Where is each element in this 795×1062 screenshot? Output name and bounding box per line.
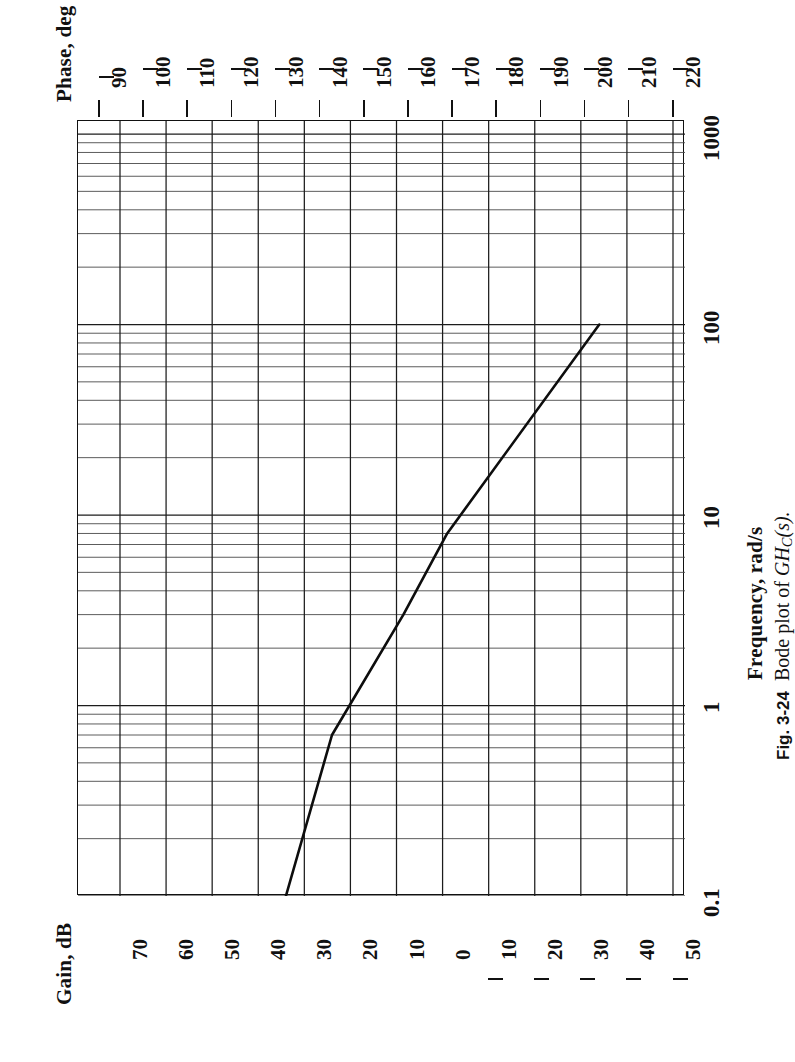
phase-tick-minus-190	[540, 68, 555, 70]
gain-tick-0: 0	[453, 950, 474, 961]
phase-tick-minus-140	[319, 68, 334, 70]
phase-tickmark-200	[584, 100, 586, 117]
caption-function-arg: (s).	[771, 511, 793, 537]
phase-axis-title: Phase, deg	[54, 6, 75, 103]
phase-tick-minus-150	[363, 68, 378, 70]
phase-tick-110: 110	[197, 58, 218, 88]
gain-tick-50: 50	[222, 939, 243, 960]
phase-tick-minus-200	[584, 68, 599, 70]
phase-tick-minus-160	[408, 68, 423, 70]
gain-tick-minus--10	[488, 978, 503, 980]
gain-tick-60: 60	[176, 939, 197, 960]
phase-tick-220: 220	[683, 57, 704, 89]
phase-tick-100: 100	[153, 57, 174, 89]
phase-tick-minus-170	[452, 68, 467, 70]
phase-tickmark-150	[363, 100, 365, 117]
gain-tick--40: 40	[637, 939, 658, 960]
phase-tick-160: 160	[418, 57, 439, 89]
gain-tick--10: 10	[499, 939, 520, 960]
figure-caption: Fig. 3-24 Bode plot of GHC(s).	[772, 511, 795, 760]
gain-tick-70: 70	[130, 939, 151, 960]
phase-tickmark-90	[98, 100, 100, 117]
phase-tick-210: 210	[639, 57, 660, 89]
phase-tickmark-130	[275, 100, 277, 117]
gain-tick-10: 10	[407, 939, 428, 960]
phase-tick-minus-110	[187, 68, 202, 70]
bode-plot-area	[77, 120, 684, 895]
gain-tick--50: 50	[683, 939, 704, 960]
phase-tick-150: 150	[374, 57, 395, 89]
frequency-tick-100: 100	[700, 311, 723, 346]
gain-tick-30: 30	[314, 939, 335, 960]
frequency-tick-0.1: 0.1	[700, 888, 723, 917]
phase-tick-120: 120	[241, 57, 262, 89]
phase-tickmark-190	[540, 100, 542, 117]
phase-tick-140: 140	[330, 57, 351, 89]
phase-tickmark-140	[319, 100, 321, 117]
phase-tickmark-160	[407, 100, 409, 117]
caption-function-subscript: C	[779, 538, 795, 548]
figure-number: Fig. 3-24	[774, 691, 793, 760]
caption-function: GH	[771, 547, 793, 576]
gain-tick-minus--20	[534, 978, 549, 980]
phase-tick-minus-90	[99, 76, 114, 78]
frequency-tick-1000: 1000	[700, 115, 723, 161]
gain-tick-40: 40	[268, 939, 289, 960]
gain-axis-title: Gain, dB	[54, 923, 75, 1005]
phase-tick-minus-180	[496, 68, 511, 70]
gain-tick-minus--40	[626, 978, 641, 980]
phase-tick-minus-120	[231, 68, 246, 70]
phase-tick-minus-130	[275, 68, 290, 70]
phase-tickmark-120	[231, 100, 233, 117]
phase-tick-minus-100	[143, 68, 158, 70]
phase-tick-minus-210	[628, 68, 643, 70]
phase-tickmark-100	[142, 100, 144, 117]
grid-major-lines	[78, 121, 685, 896]
phase-tick-180: 180	[506, 57, 527, 89]
phase-tick-130: 130	[286, 57, 307, 89]
frequency-axis-title: Frequency, rad/s	[745, 527, 766, 680]
phase-tickmark-220	[672, 100, 674, 117]
phase-tick-170: 170	[462, 57, 483, 89]
gain-tick--30: 30	[591, 939, 612, 960]
phase-tickmark-170	[451, 100, 453, 117]
grid-minor-lines	[78, 143, 685, 839]
bode-plot-svg	[78, 121, 685, 896]
phase-tick-190: 190	[551, 57, 572, 89]
phase-tick-minus-220	[673, 68, 688, 70]
gain-tick-20: 20	[360, 939, 381, 960]
frequency-tick-10: 10	[700, 506, 723, 529]
phase-tick-200: 200	[595, 57, 616, 89]
phase-tickmark-110	[186, 100, 188, 117]
phase-tickmark-210	[628, 100, 630, 117]
gain-tick-minus--30	[580, 978, 595, 980]
caption-body-pre: Bode plot of	[771, 576, 793, 681]
gain-tick-minus--50	[673, 978, 688, 980]
phase-tickmark-180	[495, 100, 497, 117]
gain-tick--20: 20	[545, 939, 566, 960]
frequency-tick-1: 1	[700, 702, 723, 714]
